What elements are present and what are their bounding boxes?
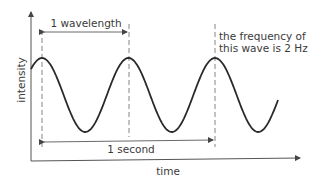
frequency-note-line-2: this wave is 2 Hz <box>219 42 308 54</box>
sine-wave <box>31 58 278 132</box>
x-axis <box>31 158 300 161</box>
x-axis-label: time <box>156 165 180 177</box>
period-label: 1 second <box>107 143 154 155</box>
frequency-note-line-1: the frequency of <box>219 30 306 42</box>
period-arrow <box>44 140 213 142</box>
wavelength-label: 1 wavelength <box>50 17 121 29</box>
y-axis-label: intensity <box>15 57 27 103</box>
wave-diagram: 1 wavelength 1 second the frequency of t… <box>0 0 315 180</box>
